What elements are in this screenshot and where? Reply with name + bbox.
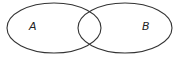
venn-diagram: A B: [0, 0, 180, 58]
set-b-label: B: [142, 20, 150, 33]
set-a-ellipse: [7, 3, 101, 53]
set-a-label: A: [28, 20, 37, 33]
set-b-ellipse: [78, 3, 172, 53]
